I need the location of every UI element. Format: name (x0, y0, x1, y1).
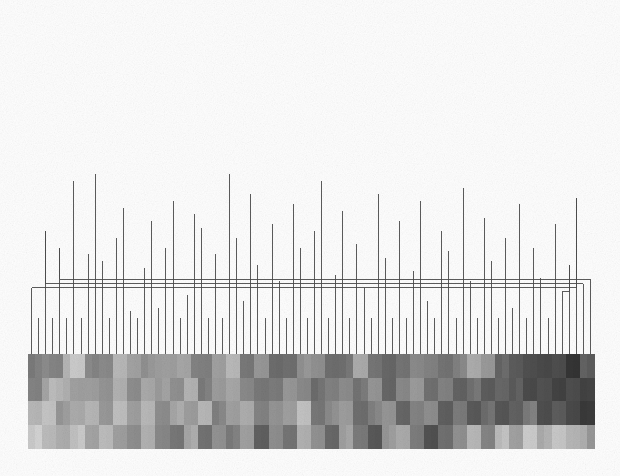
heatmap-cell (233, 378, 241, 402)
heatmap-cell (431, 354, 439, 378)
heatmap-cell (42, 425, 50, 449)
heatmap-cell (453, 425, 461, 449)
heatmap-cell (587, 425, 595, 449)
heatmap-cell (417, 425, 425, 449)
heatmap-cell (283, 354, 291, 378)
heatmap-cell (488, 354, 496, 378)
heatmap-cell (184, 425, 192, 449)
heatmap-cell (346, 401, 354, 425)
heatmap-cell (261, 354, 269, 378)
heatmap-cell (42, 401, 50, 425)
heatmap-cell (580, 378, 588, 402)
heatmap-cell (389, 378, 397, 402)
heatmap-cell (559, 401, 567, 425)
heatmap-cell (339, 354, 347, 378)
heatmap-cell (205, 425, 213, 449)
heatmap-cell (410, 401, 418, 425)
heatmap-cell (509, 378, 517, 402)
heatmap-cell (396, 378, 404, 402)
heatmap-cell (474, 354, 482, 378)
heatmap-cell (63, 354, 71, 378)
heatmap-cell (191, 425, 199, 449)
heatmap-cell (361, 354, 369, 378)
heatmap-cell (353, 401, 361, 425)
heatmap-cell (311, 378, 319, 402)
heatmap-cell (127, 378, 135, 402)
heatmap-cell (552, 425, 560, 449)
heatmap-cell (544, 378, 552, 402)
heatmap-cell (113, 378, 121, 402)
heatmap-cell (325, 401, 333, 425)
heatmap-cell (495, 401, 503, 425)
heatmap-cell (120, 425, 128, 449)
heatmap-cell (99, 425, 107, 449)
heatmap-cell (226, 354, 234, 378)
heatmap-cell (318, 378, 326, 402)
heatmap-cell (410, 354, 418, 378)
heatmap-cell (516, 354, 524, 378)
heatmap-cell (113, 354, 121, 378)
heatmap-cell (382, 425, 390, 449)
heatmap-cell (453, 378, 461, 402)
heatmap-cell (304, 425, 312, 449)
heatmap-cell (70, 378, 78, 402)
heatmap-cell (155, 378, 163, 402)
heatmap-cell (297, 354, 305, 378)
heatmap-cell (148, 401, 156, 425)
heatmap-cell (495, 378, 503, 402)
heatmap-cell (332, 378, 340, 402)
heatmap-cell (502, 354, 510, 378)
heatmap-cell (247, 354, 255, 378)
heatmap-cell (28, 401, 36, 425)
heatmap-cell (198, 425, 206, 449)
heatmap-cell (226, 401, 234, 425)
heatmap-cell (339, 378, 347, 402)
heatmap-cell (495, 425, 503, 449)
heatmap-cell (530, 354, 538, 378)
heatmap-cell (127, 401, 135, 425)
heatmap-cell (170, 378, 178, 402)
heatmap-cell (127, 425, 135, 449)
heatmap-cell (56, 425, 64, 449)
heatmap-cell (212, 354, 220, 378)
heatmap-cell (573, 378, 581, 402)
heatmap-cell (523, 425, 531, 449)
heatmap-cell (580, 354, 588, 378)
heatmap-cell (587, 354, 595, 378)
heatmap-cell (346, 378, 354, 402)
heatmap-cell (49, 354, 57, 378)
heatmap-cell (431, 425, 439, 449)
heatmap-cell (141, 354, 149, 378)
heatmap-cell (502, 378, 510, 402)
heatmap-cell (63, 425, 71, 449)
heatmap-cell (63, 378, 71, 402)
dendrogram-heatmap-figure (0, 0, 620, 476)
heatmap-cell (85, 401, 93, 425)
heatmap-cell (424, 378, 432, 402)
heatmap-cell (49, 378, 57, 402)
heatmap-cell (559, 378, 567, 402)
heatmap-cell (403, 401, 411, 425)
heatmap-cell (559, 354, 567, 378)
heatmap-cell (290, 425, 298, 449)
heatmap-cell (488, 378, 496, 402)
heatmap-cell (233, 425, 241, 449)
heatmap-cell (566, 354, 574, 378)
heatmap-cell (297, 378, 305, 402)
heatmap-cell (368, 354, 376, 378)
heatmap-cell (523, 354, 531, 378)
heatmap-cell (219, 425, 227, 449)
heatmap-cell (438, 378, 446, 402)
heatmap-cell (254, 378, 262, 402)
heatmap-cell (276, 354, 284, 378)
heatmap-cell (353, 378, 361, 402)
heatmap-cell (396, 354, 404, 378)
heatmap-cell (573, 425, 581, 449)
heatmap-cell (226, 425, 234, 449)
heatmap-cell (276, 378, 284, 402)
heatmap-cell (346, 354, 354, 378)
heatmap-cell (424, 401, 432, 425)
heatmap-cell (516, 378, 524, 402)
heatmap-cell (70, 401, 78, 425)
heatmap-cell (509, 354, 517, 378)
